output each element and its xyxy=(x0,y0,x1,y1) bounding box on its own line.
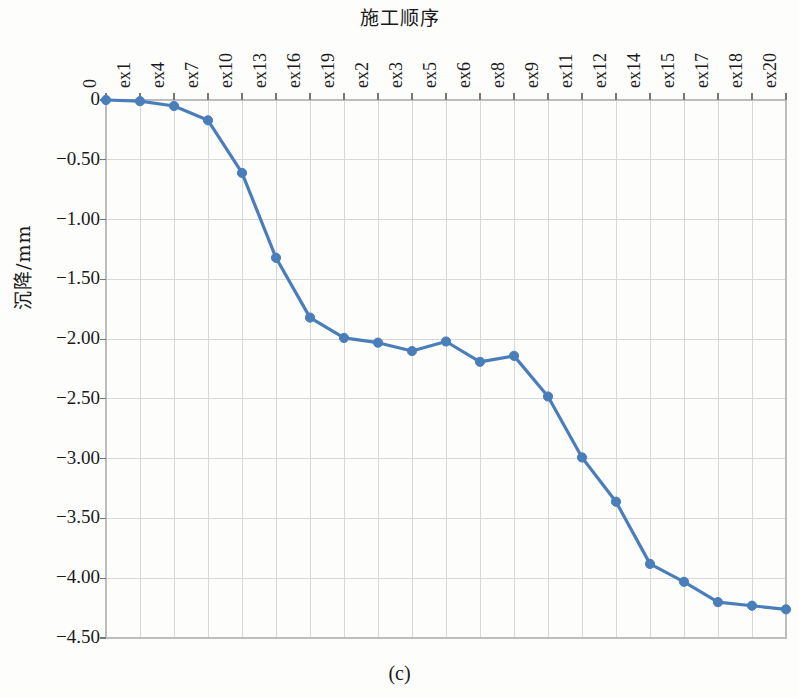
figure-caption: (c) xyxy=(0,662,799,685)
grid-lines xyxy=(106,100,786,638)
x-tick-marks xyxy=(106,93,786,100)
settlement-line-chart-figure: 施工顺序 沉降/mm 0−0.50−1.00−1.50−2.00−2.50−3.… xyxy=(0,0,799,697)
y-tick-marks xyxy=(100,100,106,638)
plot-area xyxy=(0,0,799,697)
